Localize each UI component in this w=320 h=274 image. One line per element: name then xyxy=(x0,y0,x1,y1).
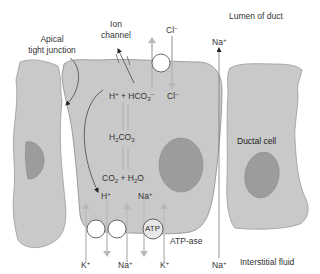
apical-label-line2: tight junction xyxy=(24,46,80,55)
cl-inside-label: Cl− xyxy=(167,91,179,101)
right-cell xyxy=(227,64,308,230)
co2-h2o-label: CO2 + H2O xyxy=(102,174,144,184)
ion-label-line2: channel xyxy=(94,31,138,40)
k-right-label: K+ xyxy=(160,260,169,270)
dissociation-equation: H+ + HCO3− xyxy=(109,91,154,102)
apical-tight-junction-label: Apical tight junction xyxy=(24,35,80,54)
atp-label: ATP xyxy=(145,225,160,233)
ion-label-line1: Ion xyxy=(94,20,138,29)
ductal-cell-label: Ductal cell xyxy=(237,137,276,146)
na-bottom-mid-label: Na+ xyxy=(118,260,132,270)
cl-hco3-exchanger xyxy=(152,54,170,72)
interstitial-label: Interstitial fluid xyxy=(240,258,294,267)
apical-label-line1: Apical xyxy=(24,35,80,44)
na-h-antiporter xyxy=(108,220,126,238)
cl-lumen-label: Cl− xyxy=(166,25,178,35)
lumen-label: Lumen of duct xyxy=(229,12,283,21)
ion-channel-label: Ion channel xyxy=(94,20,138,39)
central-cell-nucleus xyxy=(159,138,203,192)
carbonic-acid-label: H2CO3 xyxy=(109,133,135,143)
na-lumen-label: Na+ xyxy=(212,37,226,47)
k-left-label: K+ xyxy=(81,260,90,270)
atp-ase-label: ATP-ase xyxy=(170,237,202,246)
h-inside-label: H+ xyxy=(101,191,111,201)
na-bottom-right-label: Na+ xyxy=(212,260,226,270)
k-h-antiporter xyxy=(87,220,105,238)
na-inside-label: Na+ xyxy=(138,191,152,201)
